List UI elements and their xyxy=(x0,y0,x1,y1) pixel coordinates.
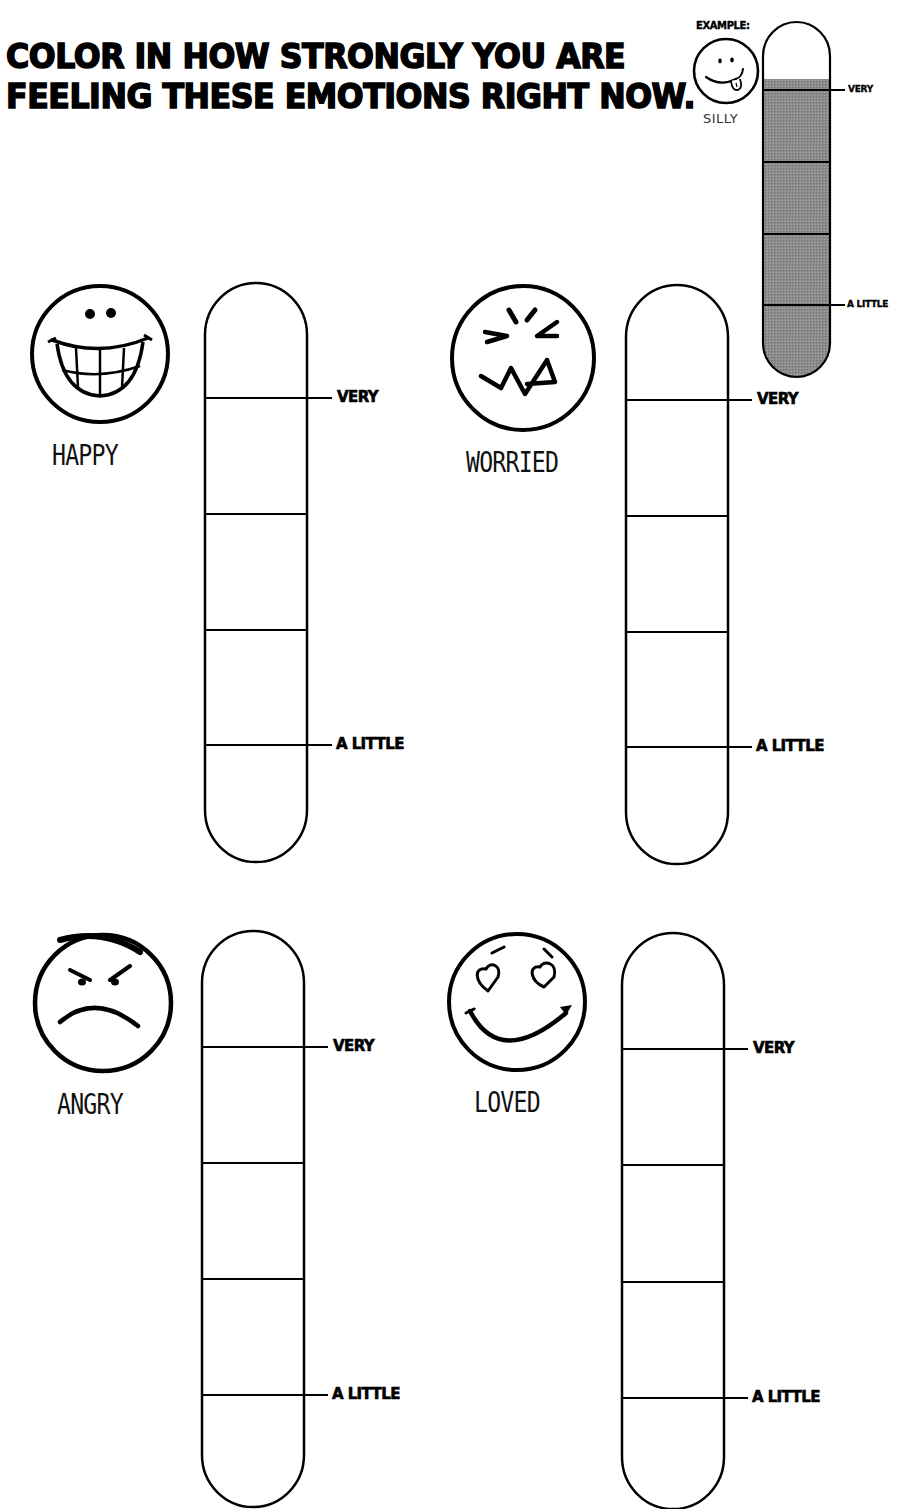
silly-face-icon xyxy=(690,35,762,107)
worried-face-icon xyxy=(449,284,599,434)
worried-a-little-label: A LITTLE xyxy=(756,737,824,755)
example-thermometer xyxy=(758,16,901,382)
happy-a-little-label: A LITTLE xyxy=(336,735,404,753)
loved-very-label: VERY xyxy=(753,1039,794,1057)
emotion-name-happy: HAPPY xyxy=(52,438,118,472)
loved-face-icon xyxy=(444,929,592,1077)
happy-face-icon xyxy=(28,282,174,428)
example-label: EXAMPLE: xyxy=(696,20,750,31)
angry-thermometer[interactable] xyxy=(196,928,336,1509)
emotion-name-worried: WORRIED xyxy=(466,445,558,479)
worried-thermometer[interactable] xyxy=(620,282,760,868)
angry-very-label: VERY xyxy=(333,1037,374,1055)
example-a-little-label: A LITTLE xyxy=(847,299,888,309)
happy-thermometer[interactable] xyxy=(200,280,340,866)
worksheet-title: COLOR IN HOW STRONGLY YOU ARE FEELING TH… xyxy=(6,36,695,116)
example-emotion-name: SILLY xyxy=(703,111,738,126)
worried-very-label: VERY xyxy=(757,390,798,408)
happy-very-label: VERY xyxy=(337,388,378,406)
loved-thermometer[interactable] xyxy=(616,930,756,1509)
title-line-1: COLOR IN HOW STRONGLY YOU ARE xyxy=(6,36,695,76)
angry-face-icon xyxy=(30,930,178,1078)
emotion-name-angry: ANGRY xyxy=(57,1087,123,1121)
title-line-2: FEELING THESE EMOTIONS RIGHT NOW. xyxy=(6,76,695,116)
example-fill xyxy=(760,79,834,379)
emotion-name-loved: LOVED xyxy=(474,1085,540,1119)
loved-a-little-label: A LITTLE xyxy=(752,1388,820,1406)
example-very-label: VERY xyxy=(848,84,873,94)
angry-a-little-label: A LITTLE xyxy=(332,1385,400,1403)
